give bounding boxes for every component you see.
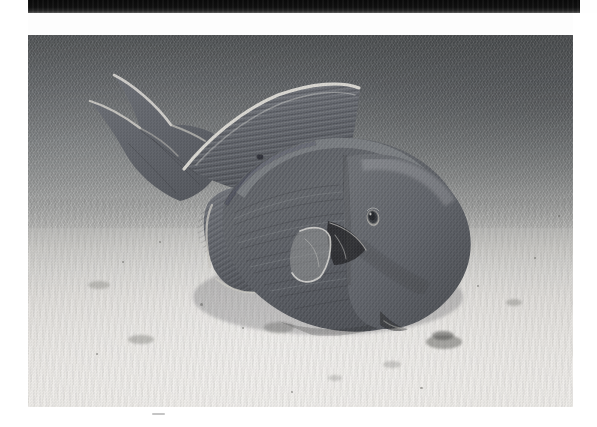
page-gutter-above-photo xyxy=(27,13,580,35)
figure-page: G xyxy=(0,0,597,427)
page-margin-left xyxy=(0,0,28,427)
stray-scan-mark xyxy=(152,413,165,415)
photograph xyxy=(28,35,573,407)
page-margin-bottom xyxy=(0,407,597,427)
page-margin-right xyxy=(573,13,597,427)
top-black-band xyxy=(27,0,580,13)
sand-ripple-texture xyxy=(28,199,573,407)
